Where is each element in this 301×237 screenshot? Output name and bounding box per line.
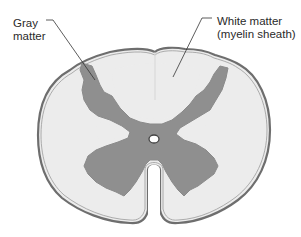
ventral-median-fissure (148, 165, 160, 222)
central-canal (149, 135, 159, 143)
spinal-cord-diagram (0, 0, 301, 237)
